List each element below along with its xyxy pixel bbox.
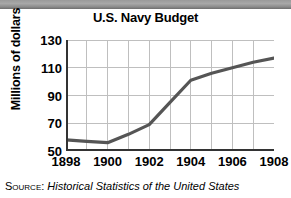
x-tick-label: 1900: [93, 154, 122, 169]
source-prefix: Source:: [5, 180, 44, 192]
chart-figure: U.S. Navy Budget Millions of dollars 507…: [0, 0, 291, 198]
source-title: Historical Statistics of the United Stat…: [47, 180, 239, 192]
chart-title: U.S. Navy Budget: [0, 10, 291, 25]
line-chart-svg: [66, 40, 274, 151]
y-tick-label: 70: [48, 116, 62, 131]
plot-area: 507090110130 189819001902190419061908: [66, 40, 274, 151]
x-tick-label: 1898: [52, 154, 81, 169]
x-tick-label: 1906: [218, 154, 247, 169]
x-tick-label: 1904: [176, 154, 205, 169]
x-tick-label: 1908: [260, 154, 289, 169]
y-tick-label: 90: [48, 88, 62, 103]
x-tick-label: 1902: [135, 154, 164, 169]
source-note: Source: Historical Statistics of the Uni…: [5, 180, 239, 192]
y-axis-label: Millions of dollars: [9, 0, 23, 129]
top-decorative-band: [0, 0, 291, 9]
y-tick-label: 110: [41, 60, 62, 75]
y-tick-label: 130: [40, 33, 62, 48]
